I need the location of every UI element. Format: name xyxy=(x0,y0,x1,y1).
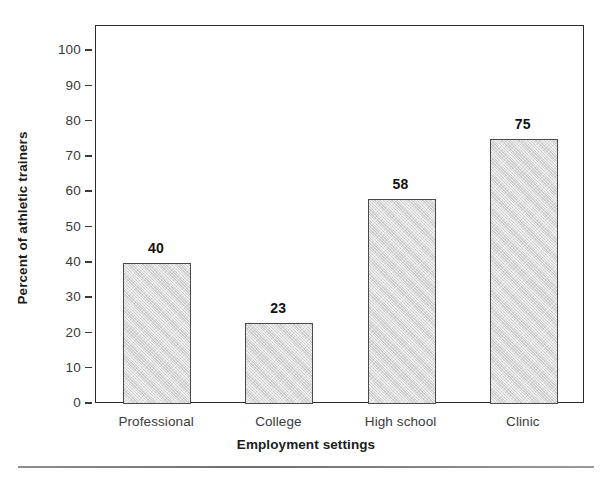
y-axis-tick-label: 0 xyxy=(73,396,81,410)
y-axis-tick-mark xyxy=(85,402,92,404)
y-axis-tick-label: 60 xyxy=(66,184,81,198)
y-axis-tick-mark xyxy=(85,261,92,263)
bar-value-label: 75 xyxy=(459,116,587,132)
x-axis-category-label: Clinic xyxy=(462,414,584,429)
x-axis-category-label: Professional xyxy=(95,414,217,429)
y-axis-tick-label: 80 xyxy=(66,113,81,127)
x-axis-category-label: College xyxy=(217,414,339,429)
bar-value-label: 23 xyxy=(214,300,342,316)
y-axis-tick-mark xyxy=(85,190,92,192)
bottom-divider xyxy=(18,466,594,468)
y-axis-tick-label: 50 xyxy=(66,219,81,233)
bar xyxy=(245,323,313,404)
y-axis-tick-label: 70 xyxy=(66,149,81,163)
bar-value-label: 58 xyxy=(337,176,465,192)
y-axis-tick-mark xyxy=(85,332,92,334)
y-axis-tick-mark xyxy=(85,120,92,122)
y-axis-tick-label: 20 xyxy=(66,325,81,339)
x-axis-category-label: High school xyxy=(340,414,462,429)
y-axis-tick-mark xyxy=(85,49,92,51)
y-axis-tick-mark xyxy=(85,296,92,298)
y-axis-tick-mark xyxy=(85,85,92,87)
y-axis-tick-mark xyxy=(85,226,92,228)
bar xyxy=(123,263,191,404)
y-axis-title: Percent of athletic trainers xyxy=(15,131,30,304)
y-axis-tick-mark xyxy=(85,155,92,157)
bar-chart-figure: 0102030405060708090100 Percent of athlet… xyxy=(0,0,612,480)
y-axis-tick-mark xyxy=(85,367,92,369)
bar xyxy=(368,199,436,404)
bar xyxy=(490,139,558,404)
y-axis-tick-label: 40 xyxy=(66,255,81,269)
y-axis-tick-label: 10 xyxy=(66,360,81,374)
y-axis-tick-label: 90 xyxy=(66,78,81,92)
x-axis-title: Employment settings xyxy=(0,437,612,452)
y-axis-tick-label: 100 xyxy=(58,43,81,57)
plot-area xyxy=(95,25,584,403)
bar-value-label: 40 xyxy=(92,240,220,256)
y-axis-tick-label: 30 xyxy=(66,290,81,304)
